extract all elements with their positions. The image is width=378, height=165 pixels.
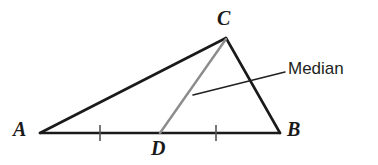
geometry-canvas <box>0 0 378 165</box>
vertex-label-d: D <box>151 138 165 158</box>
segment-cb <box>226 38 280 133</box>
leader-line-median <box>193 72 285 95</box>
vertex-label-a: A <box>13 119 26 139</box>
median-annotation-label: Median <box>288 60 344 79</box>
triangle-median-figure: A B C D Median <box>0 0 378 165</box>
segment-cd-median <box>160 39 226 133</box>
segment-ac <box>40 38 226 133</box>
vertex-label-b: B <box>287 119 300 139</box>
vertex-label-c: C <box>217 8 230 28</box>
